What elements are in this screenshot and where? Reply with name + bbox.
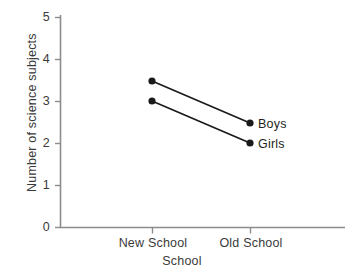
y-axis-title: Number of science subjects <box>26 33 39 192</box>
y-tick-label-5: 5 <box>28 11 50 24</box>
series-label-boys: Boys <box>258 118 287 131</box>
x-tick-label-old-school: Old School <box>203 237 299 250</box>
series-girls-point-old-school <box>246 139 253 146</box>
series-girls <box>148 97 253 146</box>
series-label-girls: Girls <box>258 138 285 151</box>
y-tick-label-0: 0 <box>28 221 50 234</box>
series-girls-point-new-school <box>148 97 155 104</box>
axis-lines <box>60 15 345 228</box>
x-axis-ticks <box>153 228 251 234</box>
series-boys-line <box>152 81 250 123</box>
series-boys <box>148 77 253 126</box>
chart-figure: 5 4 3 2 1 0 New School Old School Number… <box>0 0 364 277</box>
x-axis-title: School <box>0 255 364 268</box>
x-tick-label-new-school: New School <box>102 237 204 250</box>
y-axis-ticks <box>55 18 61 228</box>
series-boys-point-old-school <box>246 119 253 126</box>
series-boys-point-new-school <box>148 77 155 84</box>
series-girls-line <box>152 101 250 143</box>
